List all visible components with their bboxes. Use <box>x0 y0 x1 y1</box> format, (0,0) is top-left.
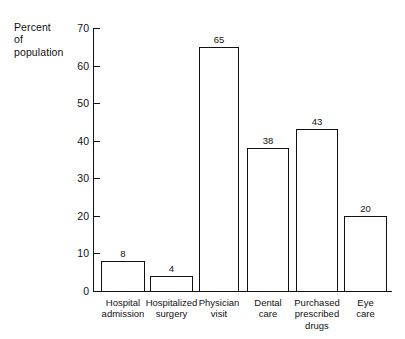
y-tick-label: 10 <box>49 248 89 259</box>
bar <box>247 148 289 292</box>
bar <box>199 47 239 292</box>
y-tick-mark <box>94 291 100 292</box>
bar <box>296 129 338 292</box>
y-tick-label: 50 <box>49 98 89 109</box>
bar-value-label: 8 <box>101 249 145 259</box>
bar-value-label: 65 <box>199 35 239 45</box>
y-tick-label: 60 <box>49 61 89 72</box>
y-tick-mark <box>94 178 100 179</box>
bar-chart: Percent of population 010203040506070 84… <box>0 0 405 339</box>
y-tick-mark <box>94 141 100 142</box>
bar-value-label: 20 <box>344 204 387 214</box>
y-tick-mark <box>94 28 100 29</box>
bar <box>344 216 387 292</box>
x-axis-category-label: Eye care <box>329 297 403 320</box>
y-axis-line <box>93 28 94 292</box>
y-tick-mark <box>94 66 100 67</box>
y-tick-label: 0 <box>49 286 89 297</box>
bar-value-label: 4 <box>150 264 193 274</box>
bar <box>101 261 145 292</box>
y-tick-label: 70 <box>49 23 89 34</box>
y-tick-label: 20 <box>49 211 89 222</box>
y-tick-mark <box>94 216 100 217</box>
y-tick-mark <box>94 253 100 254</box>
y-tick-label: 40 <box>49 136 89 147</box>
y-tick-label: 30 <box>49 173 89 184</box>
y-tick-mark <box>94 103 100 104</box>
bar <box>150 276 193 292</box>
bar-value-label: 43 <box>296 117 338 127</box>
bar-value-label: 38 <box>247 136 289 146</box>
